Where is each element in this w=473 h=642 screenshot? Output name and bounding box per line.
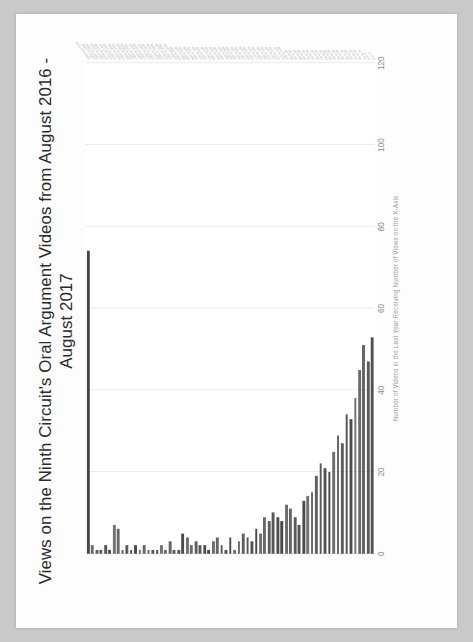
x-tick-label-100: 100 [376,138,386,152]
bar [228,537,231,553]
bar [207,550,210,554]
bar [233,550,236,554]
bar [108,550,111,554]
bar [289,509,292,554]
bar [211,542,214,554]
bar [151,550,154,554]
bar [302,501,305,554]
bar [332,452,335,554]
bar [99,550,102,554]
bar [246,537,249,553]
bar [371,337,374,554]
bar [164,550,167,554]
bar [138,550,141,554]
bar [142,546,145,554]
bar [86,251,89,554]
bar [220,546,223,554]
bar-series [85,63,374,554]
bar [125,546,128,554]
paper-sheet: Views on the Ninth Circuit's Oral Argume… [16,14,457,628]
bar [155,550,158,554]
bar [91,546,94,554]
bar [203,546,206,554]
bar [116,529,119,554]
bar [181,533,184,553]
bar [323,468,326,554]
bar [237,542,240,554]
bar [250,542,253,554]
chart-title-line-1: Views on the Ninth Circuit's Oral Argume… [35,32,56,609]
x-tick-label-40: 40 [376,386,386,395]
bar [297,525,300,554]
bar [160,546,163,554]
bar [177,550,180,554]
bar [224,550,227,554]
bar [280,521,283,554]
category-axis: 2000 and Over1950 to 19991900 to 1949185… [85,30,374,63]
bar [95,550,98,554]
bar [310,492,313,553]
x-tick-label-20: 20 [376,467,386,476]
bar [104,546,107,554]
bar [328,472,331,554]
chart-figure: Views on the Ninth Circuit's Oral Argume… [30,32,444,609]
bar [190,546,193,554]
bar [353,398,356,553]
bar [185,537,188,553]
bar [366,362,369,554]
bar [267,521,270,554]
x-tick-label-0: 0 [376,552,386,557]
bar [276,517,279,554]
bar [340,443,343,553]
x-tick-label-80: 80 [376,222,386,231]
bar [216,537,219,553]
bar [172,550,175,554]
bar [129,550,132,554]
scanned-page: Views on the Ninth Circuit's Oral Argume… [0,0,473,642]
x-tick-label-120: 120 [376,56,386,70]
bar [349,419,352,554]
bar [241,533,244,553]
bar [112,525,115,554]
bar [315,476,318,554]
x-tick-label-60: 60 [376,304,386,313]
bar [147,550,150,554]
bar [254,529,257,554]
bar [168,542,171,554]
bar [194,542,197,554]
bar [272,513,275,554]
bar [259,533,262,553]
bar [198,546,201,554]
bar [263,517,266,554]
bar [293,517,296,554]
bar [284,505,287,554]
value-axis-label: Number of Videos in the Last Year Receiv… [391,63,398,554]
bar [358,370,361,554]
bar [121,550,124,554]
bar [345,415,348,554]
chart-title: Views on the Ninth Circuit's Oral Argume… [35,32,77,609]
chart-title-line-2: August 2017 [56,32,77,609]
bar [362,345,365,554]
bar [306,497,309,554]
bar [336,435,339,554]
bar [319,464,322,554]
plot-area [85,63,374,554]
bar [134,546,137,554]
